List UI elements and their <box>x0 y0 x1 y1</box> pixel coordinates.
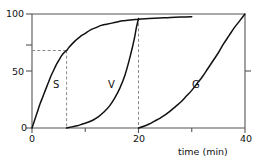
curve-V <box>67 19 139 128</box>
curve-G <box>139 14 246 128</box>
dashed-guides <box>32 18 139 128</box>
x-tick-label-0: 0 <box>29 134 35 144</box>
chart-figure: 100 50 0 0 20 40 time (min) S V G <box>0 0 265 161</box>
x-axis-title: time (min) <box>178 147 228 157</box>
y-tick-label-100: 100 <box>6 9 24 19</box>
y-axis-ticks <box>26 14 32 128</box>
x-tick-label-20: 20 <box>133 134 145 144</box>
y-tick-label-50: 50 <box>12 67 24 77</box>
curve-S <box>32 17 192 128</box>
y-tick-label-0: 0 <box>21 123 27 133</box>
curve-label-s: S <box>53 80 59 90</box>
curve-label-v: V <box>108 80 115 90</box>
x-tick-label-40: 40 <box>240 134 252 144</box>
curve-label-g: G <box>192 80 200 90</box>
